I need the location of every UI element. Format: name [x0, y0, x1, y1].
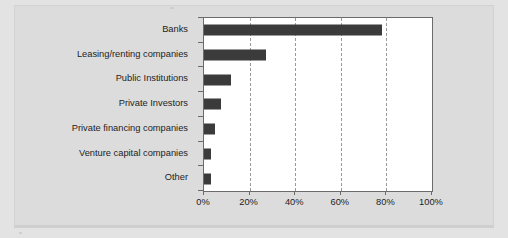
bar-row [204, 142, 432, 167]
bar-row [204, 92, 432, 117]
y-axis-tick [198, 116, 203, 117]
y-axis-tick-label: Leasing/renting companies [77, 42, 188, 67]
bar-row [204, 117, 432, 142]
y-axis-tick [198, 190, 203, 191]
y-axis-tick [198, 66, 203, 67]
chart-figure: BanksLeasing/renting companiesPublic Ins… [0, 0, 508, 238]
x-axis-tick-label: 60% [320, 197, 360, 207]
bar [204, 99, 221, 110]
scan-artifact [19, 232, 22, 234]
x-axis-tick-label: 20% [229, 197, 269, 207]
bar [204, 124, 215, 135]
scan-artifact-top [170, 7, 174, 9]
y-axis-labels: BanksLeasing/renting companiesPublic Ins… [0, 17, 197, 190]
bar-row [204, 67, 432, 92]
x-axis-tick [385, 191, 386, 195]
bar [204, 148, 211, 159]
x-axis-tick [249, 191, 250, 195]
y-axis-tick-label: Other [165, 165, 188, 190]
plot-area [203, 17, 433, 192]
bar [204, 25, 382, 36]
x-axis-tick [294, 191, 295, 195]
y-axis-tick-label: Venture capital companies [79, 141, 188, 166]
panel-bottom-edge [14, 225, 494, 228]
x-axis-tick [431, 191, 432, 195]
x-axis-tick-label: 0% [183, 197, 223, 207]
y-axis-tick [198, 141, 203, 142]
y-axis-tick-label: Private Investors [119, 91, 188, 116]
bar-row [204, 166, 432, 191]
x-axis-tick [340, 191, 341, 195]
bar [204, 74, 231, 85]
y-axis-tick-label: Public Institutions [116, 66, 188, 91]
y-axis-tick [198, 165, 203, 166]
x-axis-tick-label: 40% [274, 197, 314, 207]
x-axis-tick [203, 191, 204, 195]
y-axis-tick [198, 42, 203, 43]
bar [204, 50, 266, 61]
y-axis-tick-label: Private financing companies [72, 116, 188, 141]
y-axis-tick-label: Banks [162, 17, 188, 42]
bar-row [204, 43, 432, 68]
x-axis-tick-label: 80% [365, 197, 405, 207]
x-axis-tick-label: 100% [411, 197, 451, 207]
y-axis-tick [198, 17, 203, 18]
y-axis-tick [198, 91, 203, 92]
bar [204, 173, 211, 184]
bar-row [204, 18, 432, 43]
